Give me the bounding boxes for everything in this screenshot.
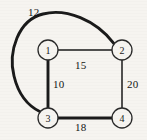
node-1-label: 1: [46, 45, 51, 56]
node-3-label: 3: [46, 113, 51, 124]
node-2-label: 2: [120, 45, 125, 56]
edge-weight-label-20: 20: [127, 79, 138, 90]
edge-2-3-arc: [12, 12, 114, 112]
graph-figure: 1 2 3 4 12 15 10 20 18: [0, 0, 147, 140]
node-4-label: 4: [120, 113, 125, 124]
graph-canvas: 1 2 3 4: [0, 0, 147, 140]
edge-weight-label-15: 15: [75, 60, 86, 71]
edge-weight-label-10: 10: [53, 79, 64, 90]
edge-weight-label-18: 18: [75, 122, 86, 133]
edge-weight-label-12: 12: [28, 7, 39, 18]
